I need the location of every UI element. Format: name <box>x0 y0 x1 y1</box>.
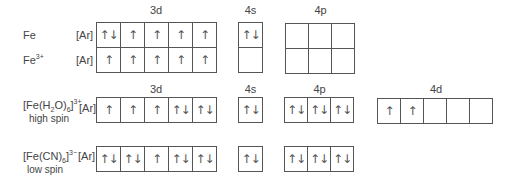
header-3d-bottom: 3d <box>96 83 216 95</box>
orbital-box: ↑ <box>169 48 193 73</box>
header-4s-bottom: 4s <box>238 83 263 95</box>
orbital-box <box>470 99 493 124</box>
label-fe-cn6: [Fe(CN)6]3− <box>23 149 77 164</box>
orbital-box <box>309 24 332 49</box>
orbital-box: ↑↓ <box>169 147 193 172</box>
orbital-4p-high-spin: ↑↓ ↑↓ ↑↓ <box>284 97 354 123</box>
orbital-box: ↑↓ <box>308 98 331 123</box>
orbital-box: ↑↓ <box>285 98 308 123</box>
header-4d-bottom: 4d <box>377 83 495 95</box>
core-ar-2: [Ar] <box>76 54 93 66</box>
core-ar-4: [Ar] <box>78 150 95 162</box>
orbital-3d-top: ↑↓ ↑ ↑ ↑ ↑ ↑ ↑ ↑ ↑ ↑ <box>96 22 217 73</box>
orbital-box: ↑↓ <box>121 147 145 172</box>
orbital-box <box>286 49 309 74</box>
orbital-box: ↑ <box>145 23 169 48</box>
label-fe3plus: Fe3+ <box>23 53 44 66</box>
orbital-box: ↑ <box>145 48 169 73</box>
orbital-box <box>332 24 355 49</box>
orbital-4s-top: ↑↓ <box>238 22 263 73</box>
orbital-box <box>332 49 355 74</box>
orbital-box <box>286 24 309 49</box>
header-3d-top: 3d <box>96 4 216 16</box>
orbital-3d-low-spin: ↑↓ ↑↓ ↑ ↑↓ ↑↓ <box>96 146 217 172</box>
orbital-4p-top <box>285 23 355 74</box>
label-high-spin: high spin <box>29 113 69 124</box>
orbital-box: ↑ <box>169 23 193 48</box>
orbital-box <box>447 99 470 124</box>
orbital-box: ↑ <box>121 98 145 123</box>
orbital-box: ↑ <box>97 98 121 123</box>
core-ar-1: [Ar] <box>76 29 93 41</box>
orbital-box <box>239 48 263 73</box>
orbital-box: ↑ <box>145 98 169 123</box>
orbital-3d-high-spin: ↑ ↑ ↑ ↑↓ ↑↓ <box>96 97 217 123</box>
orbital-box: ↑↓ <box>97 23 121 48</box>
label-fe-h2o6: [Fe(H2O)6]3+ <box>23 98 82 113</box>
orbital-box: ↑↓ <box>193 147 217 172</box>
orbital-box: ↑ <box>193 23 217 48</box>
orbital-4d-high-spin: ↑ ↑ <box>377 98 493 124</box>
header-4s-top: 4s <box>238 4 263 16</box>
orbital-box: ↑↓ <box>331 147 354 172</box>
orbital-box: ↑ <box>193 48 217 73</box>
orbital-box: ↑↓ <box>169 98 193 123</box>
orbital-box: ↑↓ <box>239 23 263 48</box>
orbital-4s-high-spin: ↑↓ <box>238 97 263 123</box>
orbital-box: ↑ <box>121 48 145 73</box>
orbital-box: ↑↓ <box>239 147 263 172</box>
orbital-box <box>309 49 332 74</box>
orbital-box: ↑↓ <box>239 98 263 123</box>
orbital-box: ↑ <box>97 48 121 73</box>
orbital-box: ↑↓ <box>193 98 217 123</box>
orbital-box: ↑↓ <box>285 147 308 172</box>
header-4p-top: 4p <box>285 4 356 16</box>
core-ar-3: [Ar] <box>79 102 96 114</box>
orbital-4p-low-spin: ↑↓ ↑↓ ↑↓ <box>284 146 354 172</box>
orbital-box: ↑ <box>401 99 424 124</box>
orbital-box: ↑↓ <box>331 98 354 123</box>
header-4p-bottom: 4p <box>284 83 355 95</box>
label-fe: Fe <box>23 29 36 41</box>
orbital-box: ↑ <box>378 99 401 124</box>
orbital-box: ↑↓ <box>97 147 121 172</box>
orbital-box: ↑ <box>145 147 169 172</box>
label-low-spin: low spin <box>27 164 63 175</box>
orbital-4s-low-spin: ↑↓ <box>238 146 263 172</box>
orbital-box <box>424 99 447 124</box>
orbital-box: ↑↓ <box>308 147 331 172</box>
orbital-box: ↑ <box>121 23 145 48</box>
